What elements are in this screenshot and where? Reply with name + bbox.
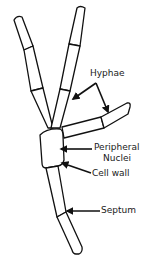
hyphae-diagram xyxy=(0,0,150,261)
right-hypha-branch xyxy=(62,103,130,138)
hyphae-label: Hyphae xyxy=(90,68,125,79)
left-branch-tip-cell xyxy=(14,16,33,50)
middle-branch-cell-2 xyxy=(60,44,80,91)
peripheral-nuclei-label-line2: Nuclei xyxy=(103,153,131,164)
middle-branch-cell-3 xyxy=(51,89,70,128)
left-hypha-branch xyxy=(14,16,53,128)
lower-hypha-trunk xyxy=(46,166,82,254)
hyphae-arrow-left xyxy=(73,83,96,99)
lower-trunk-cell-2 xyxy=(57,212,82,254)
middle-branch-tip-cell xyxy=(69,7,85,47)
lower-trunk-cell-1 xyxy=(46,166,66,217)
left-branch-cell-3 xyxy=(31,88,53,128)
septum-label: Septum xyxy=(101,205,136,216)
cell-wall-label: Cell wall xyxy=(92,168,130,179)
hyphae-arrow-right xyxy=(96,83,108,112)
right-branch-cell-1 xyxy=(62,117,104,138)
peripheral-nuclei-label-line1: Peripheral xyxy=(94,142,140,153)
junction-cell xyxy=(40,129,64,168)
left-branch-cell-2 xyxy=(24,46,43,91)
middle-hypha-branch xyxy=(51,7,85,129)
cell-wall-arrow xyxy=(62,163,91,173)
